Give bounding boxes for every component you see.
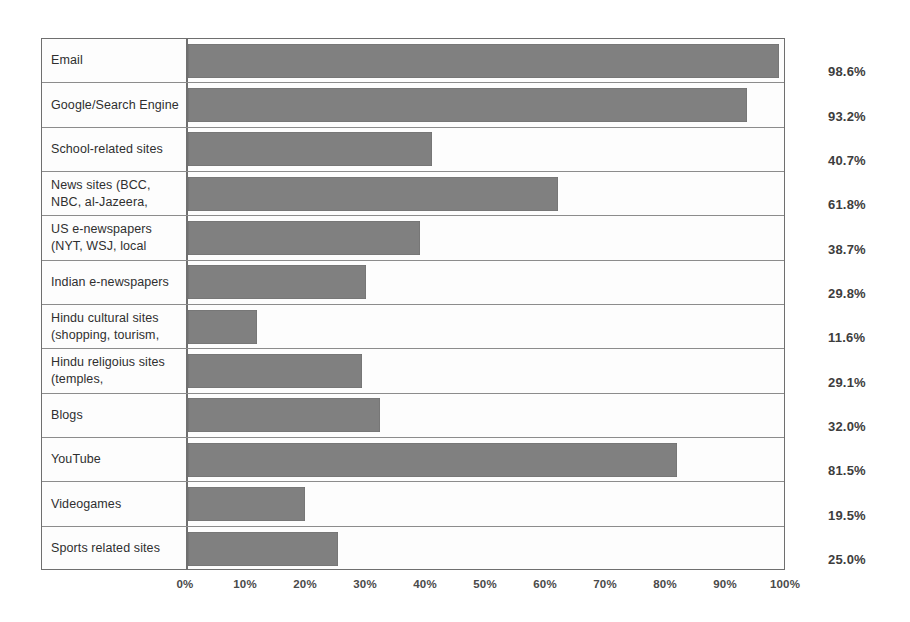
- category-label: School-related sites: [51, 128, 183, 171]
- bar-track: [188, 482, 785, 525]
- bar-row: Email: [42, 39, 784, 83]
- bar-track: [188, 216, 785, 259]
- chart-plot-frame: EmailGoogle/Search EngineSchool-related …: [41, 38, 785, 570]
- data-value-label: 19.5%: [828, 508, 898, 523]
- category-label: US e-newspapers (NYT, WSJ, local: [51, 216, 183, 259]
- data-value-label: 61.8%: [828, 197, 898, 212]
- category-label: Email: [51, 39, 183, 82]
- data-value-label: 40.7%: [828, 153, 898, 168]
- category-label: Blogs: [51, 394, 183, 437]
- bar-row: Blogs: [42, 394, 784, 438]
- bar-track: [188, 261, 785, 304]
- category-label: News sites (BCC, NBC, al-Jazeera,: [51, 172, 183, 215]
- x-tick-label: 90%: [713, 578, 737, 590]
- bar-row: News sites (BCC, NBC, al-Jazeera,: [42, 172, 784, 216]
- category-label: Sports related sites: [51, 527, 183, 571]
- category-label: YouTube: [51, 438, 183, 481]
- data-value-label: 81.5%: [828, 463, 898, 478]
- x-tick-label: 80%: [653, 578, 677, 590]
- bar-track: [188, 39, 785, 82]
- bar: [188, 398, 380, 432]
- bar-track: [188, 349, 785, 392]
- bar-chart: EmailGoogle/Search EngineSchool-related …: [0, 0, 910, 622]
- data-value-label: 93.2%: [828, 109, 898, 124]
- bar-row: US e-newspapers (NYT, WSJ, local: [42, 216, 784, 260]
- bar: [188, 221, 420, 255]
- bar-row: Hindu cultural sites (shopping, tourism,: [42, 305, 784, 349]
- bar: [188, 132, 432, 166]
- x-tick-label: 10%: [233, 578, 257, 590]
- data-value-label: 29.8%: [828, 286, 898, 301]
- bar-row: Sports related sites: [42, 527, 784, 571]
- category-label: Indian e-newspapers: [51, 261, 183, 304]
- bar: [188, 354, 363, 388]
- category-label: Videogames: [51, 482, 183, 525]
- bar-track: [188, 128, 785, 171]
- bar: [188, 44, 780, 78]
- x-tick-label: 40%: [413, 578, 437, 590]
- bar: [188, 177, 559, 211]
- x-tick-label: 60%: [533, 578, 557, 590]
- data-value-label: 29.1%: [828, 375, 898, 390]
- x-tick-label: 100%: [770, 578, 800, 590]
- bar-track: [188, 305, 785, 348]
- x-tick-label: 30%: [353, 578, 377, 590]
- bar: [188, 310, 258, 344]
- category-label: Hindu cultural sites (shopping, tourism,: [51, 305, 183, 348]
- x-axis-tick-labels: 0%10%20%30%40%50%60%70%80%90%100%: [0, 578, 910, 600]
- bar-track: [188, 527, 785, 571]
- bar-track: [188, 83, 785, 126]
- x-tick-label: 0%: [176, 578, 193, 590]
- data-value-label: 25.0%: [828, 552, 898, 567]
- bar-row: Hindu religoius sites (temples,: [42, 349, 784, 393]
- bar-row: YouTube: [42, 438, 784, 482]
- bar: [188, 532, 338, 566]
- bar: [188, 265, 367, 299]
- bar-row: School-related sites: [42, 128, 784, 172]
- bar-track: [188, 394, 785, 437]
- x-tick-label: 50%: [473, 578, 497, 590]
- bar-row: Google/Search Engine: [42, 83, 784, 127]
- category-label: Hindu religoius sites (temples,: [51, 349, 183, 392]
- bar: [188, 487, 305, 521]
- data-value-label: 32.0%: [828, 419, 898, 434]
- bar-row: Indian e-newspapers: [42, 261, 784, 305]
- bar-row: Videogames: [42, 482, 784, 526]
- bar: [188, 443, 677, 477]
- bar: [188, 88, 747, 122]
- bar-track: [188, 172, 785, 215]
- data-value-label: 11.6%: [828, 330, 898, 345]
- bar-track: [188, 438, 785, 481]
- x-tick-label: 20%: [293, 578, 317, 590]
- data-value-label: 38.7%: [828, 242, 898, 257]
- x-tick-label: 70%: [593, 578, 617, 590]
- data-value-label: 98.6%: [828, 64, 898, 79]
- category-label: Google/Search Engine: [51, 83, 183, 126]
